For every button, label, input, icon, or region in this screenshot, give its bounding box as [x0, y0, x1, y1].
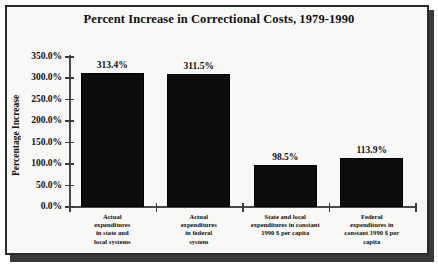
category-label-line: Federal [329, 213, 416, 221]
bar-value-label: 313.4% [72, 60, 152, 70]
y-tick-label: 50.0% [2, 180, 62, 190]
bar-value-label: 98.5% [245, 152, 325, 162]
bar-value-label: 311.5% [159, 61, 239, 71]
y-tick-label: 350.0% [2, 51, 62, 61]
category-label-line: local systems [69, 238, 156, 246]
category-label-line: Actual [156, 213, 243, 221]
category-label: State and localexpenditures in constant1… [242, 213, 329, 238]
category-label-line: Actual [69, 213, 156, 221]
x-tick-mark [415, 203, 417, 212]
category-label-line: expenditures in [329, 221, 416, 229]
category-label-line: capita [329, 238, 416, 246]
bar [340, 158, 403, 207]
bar [167, 74, 230, 208]
chart-figure: Percent Increase in Correctional Costs, … [0, 0, 438, 265]
bar-value-label: 113.9% [332, 145, 412, 155]
category-label: Federalexpenditures inconstant 1990 $ pe… [329, 213, 416, 246]
y-tick-label: 100.0% [2, 158, 62, 168]
category-label-line: expenditures in constant [242, 221, 329, 229]
y-tick-label: 250.0% [2, 94, 62, 104]
category-label-line: State and local [242, 213, 329, 221]
category-label: Actualexpendituresin federalsystem [156, 213, 243, 246]
chart-title: Percent Increase in Correctional Costs, … [0, 12, 438, 27]
bar [81, 73, 144, 207]
category-label-line: system [156, 238, 243, 246]
category-label-line: 1990 $ per capita [242, 229, 329, 237]
y-tick-label: 200.0% [2, 115, 62, 125]
category-label-line: expenditures [156, 221, 243, 229]
bar [254, 165, 317, 207]
category-label-line: in federal [156, 229, 243, 237]
category-label-line: in state and [69, 229, 156, 237]
category-label-line: constant 1990 $ per [329, 229, 416, 237]
category-label: Actualexpendituresin state andlocal syst… [69, 213, 156, 246]
y-tick-label: 300.0% [2, 72, 62, 82]
plot-area [69, 57, 415, 207]
y-tick-label: 150.0% [2, 137, 62, 147]
category-label-line: expenditures [69, 221, 156, 229]
y-tick-label: 0.0% [2, 201, 62, 211]
